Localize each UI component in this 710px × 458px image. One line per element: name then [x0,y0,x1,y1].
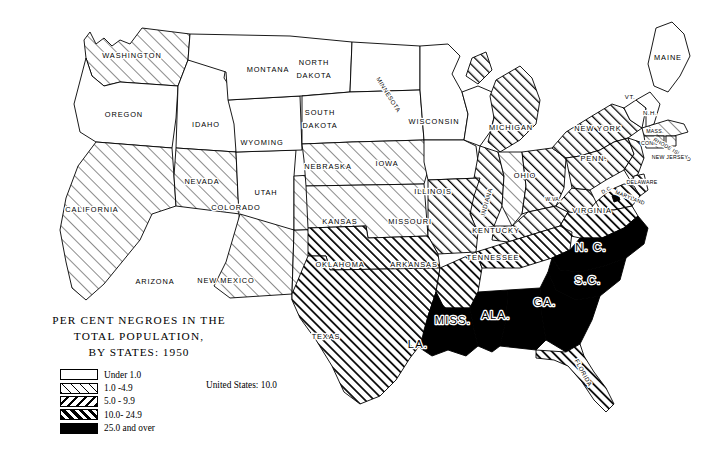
label-louisiana: LA. [408,338,428,350]
legend-block: PER CENT NEGROES IN THE TOTAL POPULATION… [6,312,346,435]
legend-label: 10.0- 24.9 [104,410,142,420]
label-wisconsin: WISCONSIN [409,117,460,126]
label-utah: UTAH [254,188,277,197]
state-iowa[interactable] [424,140,480,180]
map-figure: WASHINGTON OREGON IDAHO MONTANA NORTH DA… [0,0,710,458]
label-tennessee: TENNESSEE [467,253,520,262]
legend-label: 25.0 and over [104,423,155,433]
label-north-carolina: N. C. [575,241,607,253]
title-line-2: TOTAL POPULATION, [10,328,268,344]
label-arizona: ARIZONA [135,277,174,286]
label-virginia: VIRGINIA [572,206,612,215]
title-line-1: PER CENT NEGROES IN THE [10,312,268,328]
label-delaware: DELAWARE [626,179,657,185]
state-arizona[interactable] [214,214,294,298]
label-north-dakota-1: NORTH [299,58,330,67]
label-new-jersey: NEW JERSEY [652,154,689,160]
label-california: CALIFORNIA [65,205,118,214]
label-maine: MAINE [654,53,682,62]
label-new-york: NEW YORK [574,124,621,133]
label-idaho: IDAHO [192,120,220,129]
label-nevada: NEVADA [184,177,219,186]
label-nebraska: NEBRASKA [304,162,351,171]
label-kentucky: KENTUCKY [472,226,519,235]
label-washington: WASHINGTON [102,51,162,60]
label-montana: MONTANA [247,65,290,74]
label-oregon: OREGON [105,110,143,119]
label-kansas: KANSAS [322,217,357,226]
label-south-dakota-1: SOUTH [305,108,335,117]
label-south-carolina: S.C. [575,274,602,286]
label-michigan: MICHIGAN [489,123,533,132]
state-south-dakota[interactable] [302,90,424,144]
label-pennsylvania: PENN. [580,154,607,163]
label-georgia: GA. [534,296,557,308]
label-west-virginia: W.VA. [545,196,561,202]
legend-swatch-10-to-24.9 [60,409,98,420]
label-north-dakota-2: DAKOTA [296,71,331,80]
legend-swatch-25-and-over [60,423,98,434]
legend-label: 1.0 -4.9 [104,383,133,393]
label-wyoming: WYOMING [240,138,283,147]
label-new-mexico: NEW MEXICO [197,276,254,285]
legend-swatch-under-1 [60,369,98,380]
legend-swatch-1-to-4.9 [60,383,98,394]
label-missouri: MISSOURI [388,217,432,226]
label-oklahoma: OKLAHOMA [315,260,364,269]
legend-key-list: Under 1.0 1.0 -4.9 5.0 - 9.9 10.0- 24.9 … [60,368,346,435]
label-arkansas: ARKANSAS [390,260,437,269]
legend-label: Under 1.0 [104,370,141,380]
label-vermont: VT. [625,93,635,100]
legend-item[interactable]: 25.0 and over [60,422,346,435]
legend-item[interactable]: 1.0 -4.9 [60,381,346,394]
figure-title: PER CENT NEGROES IN THE TOTAL POPULATION… [10,312,268,360]
title-line-3: BY STATES: 1950 [10,344,268,360]
label-south-dakota-2: DAKOTA [302,121,337,130]
label-massachusetts: MASS. [646,128,664,134]
label-mississippi: MISS. [435,314,471,326]
label-iowa: IOWA [375,159,398,168]
label-colorado: COLORADO [211,203,261,212]
state-florida[interactable] [536,344,614,412]
legend-item[interactable]: Under 1.0 [60,368,346,381]
legend-label: 5.0 - 9.9 [104,396,135,406]
legend-item[interactable]: 5.0 - 9.9 [60,395,346,408]
label-alabama: ALA. [481,309,510,321]
national-average-note: United States: 10.0 [206,380,277,390]
legend-item[interactable]: 10.0- 24.9 [60,408,346,421]
label-illinois: ILLINOIS [414,187,452,196]
label-new-hampshire: N.H. [643,109,657,116]
legend-swatch-5-to-9.9 [60,396,98,407]
label-ohio: OHIO [514,171,537,180]
